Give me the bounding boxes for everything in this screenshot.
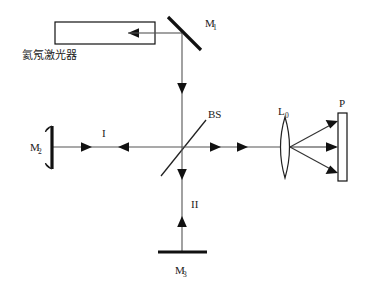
arm-two-label: II bbox=[191, 198, 199, 210]
arrowhead-output-two bbox=[237, 142, 248, 152]
lens-label: L bbox=[278, 105, 285, 117]
optical-diagram-figure: 氦氖激光器 M 1 M 2 M 3 BS L 0 P I II bbox=[0, 0, 367, 291]
screen-p-body bbox=[338, 113, 347, 181]
diagram-canvas: 氦氖激光器 M 1 M 2 M 3 BS L 0 P I II bbox=[0, 0, 367, 291]
screen-label: P bbox=[339, 97, 345, 109]
arm-one-label: I bbox=[102, 127, 106, 139]
arrowhead-arm-two-return bbox=[177, 216, 187, 227]
arrowhead-arm-one-return bbox=[118, 142, 129, 152]
mirror-2-label-subscript: 2 bbox=[38, 147, 42, 156]
arrowhead-m1-to-bs bbox=[177, 83, 187, 94]
beam-splitter-label: BS bbox=[208, 108, 221, 120]
mirror-3-label-subscript: 3 bbox=[183, 270, 187, 279]
arrowhead-output-one bbox=[210, 142, 221, 152]
arrowhead-ray-center bbox=[326, 142, 338, 152]
lens-label-subscript: 0 bbox=[285, 111, 289, 120]
mirror-1-label-subscript: 1 bbox=[213, 23, 217, 32]
laser-source-label: 氦氖激光器 bbox=[22, 48, 77, 62]
arrowhead-arm-one-outbound bbox=[81, 142, 92, 152]
arrowhead-arm-two-outbound bbox=[177, 169, 187, 180]
lens-l0-body bbox=[281, 117, 290, 178]
beam-splitter-surface bbox=[161, 120, 206, 176]
